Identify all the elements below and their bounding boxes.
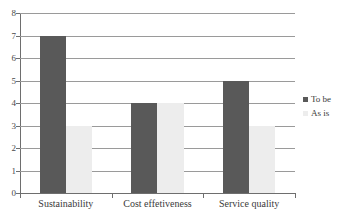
y-tick-label-4: 4 [2, 99, 16, 108]
bar [131, 103, 157, 193]
y-tick-label-6: 6 [2, 54, 16, 63]
y-tick-label-5: 5 [2, 77, 16, 86]
bar [66, 126, 92, 194]
bar [249, 126, 275, 194]
y-tick-label-3: 3 [2, 122, 16, 131]
legend-swatch-icon [303, 111, 308, 116]
category-label: Cost effetiveness [112, 198, 204, 210]
bar-chart: 012345678 SustainabilityCost effetivenes… [0, 0, 352, 218]
legend-label: To be [311, 94, 331, 104]
bar [157, 103, 183, 193]
y-axis-labels: 012345678 [0, 0, 16, 218]
legend-label: As is [311, 108, 329, 118]
chart-legend: To beAs is [303, 92, 352, 120]
category-label: Sustainability [20, 198, 112, 210]
y-tick-label-0: 0 [2, 189, 16, 198]
legend-swatch-icon [303, 97, 308, 102]
bar [223, 81, 249, 194]
category-label: Service quality [203, 198, 295, 210]
x-axis-line [20, 193, 296, 194]
y-tick-label-8: 8 [2, 9, 16, 18]
legend-item[interactable]: To be [303, 92, 352, 106]
x-tick-mark [295, 193, 296, 198]
y-tick-label-7: 7 [2, 32, 16, 41]
bar-group [20, 13, 112, 193]
y-tick-label-2: 2 [2, 144, 16, 153]
y-tick-label-1: 1 [2, 167, 16, 176]
bar [40, 36, 66, 194]
legend-item[interactable]: As is [303, 106, 352, 120]
bar-group [112, 13, 204, 193]
bar-group [203, 13, 295, 193]
plot-area [20, 13, 295, 193]
